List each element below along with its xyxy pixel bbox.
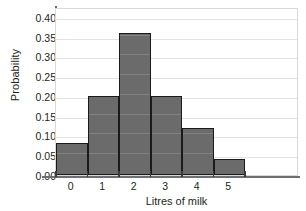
- bar-gridline: [152, 133, 182, 134]
- x-tick-mark: [55, 171, 57, 177]
- plot-area: [55, 8, 298, 176]
- histogram-figure: Probability 0.000.050.100.150.200.250.30…: [0, 0, 306, 211]
- y-tick-label: 0.35: [24, 33, 56, 43]
- x-tick-mark: [118, 171, 120, 177]
- bar: [119, 33, 151, 175]
- bar-series: [56, 9, 297, 175]
- bar: [182, 128, 214, 175]
- y-tick-label: 0.25: [24, 72, 56, 82]
- bar-gridline: [89, 133, 119, 134]
- y-tick-label: 0.10: [24, 131, 56, 141]
- x-tick-label: 4: [181, 180, 213, 192]
- x-tick-mark: [244, 171, 246, 177]
- bar-gridline: [152, 153, 182, 154]
- bar-gridline: [89, 114, 119, 115]
- x-tick-label: 5: [212, 180, 244, 192]
- x-tick-mark: [87, 171, 89, 177]
- bar-gridline: [120, 54, 150, 55]
- bar-gridline: [120, 74, 150, 75]
- x-tick-mark: [150, 171, 152, 177]
- x-tick-label: 2: [118, 180, 150, 192]
- x-tick-label: 3: [149, 180, 181, 192]
- bar: [151, 96, 183, 175]
- x-axis-title: Litres of milk: [55, 195, 298, 207]
- bar-gridline: [183, 153, 213, 154]
- y-tick-label: 0.20: [24, 92, 56, 102]
- y-tick-label: 0.05: [24, 151, 56, 161]
- bar-gridline: [120, 133, 150, 134]
- bar-gridline: [152, 114, 182, 115]
- y-axis-ticks: 0.000.050.100.150.200.250.300.350.40: [24, 8, 56, 184]
- x-tick-mark: [213, 171, 215, 177]
- bar-gridline: [183, 133, 213, 134]
- y-tick-label: 0.30: [24, 52, 56, 62]
- bar-gridline: [120, 114, 150, 115]
- bar-gridline: [57, 153, 87, 154]
- bar: [88, 96, 120, 175]
- bar-gridline: [120, 94, 150, 95]
- x-tick-label: 1: [86, 180, 118, 192]
- bar-gridline: [89, 153, 119, 154]
- bar-gridline: [120, 153, 150, 154]
- y-tick-label: 0.40: [24, 13, 56, 23]
- y-tick-label: 0.15: [24, 112, 56, 122]
- bar: [214, 159, 246, 175]
- x-tick-label: 0: [55, 180, 87, 192]
- x-tick-mark: [181, 171, 183, 177]
- bar: [56, 143, 88, 175]
- bar-gridline: [120, 35, 150, 36]
